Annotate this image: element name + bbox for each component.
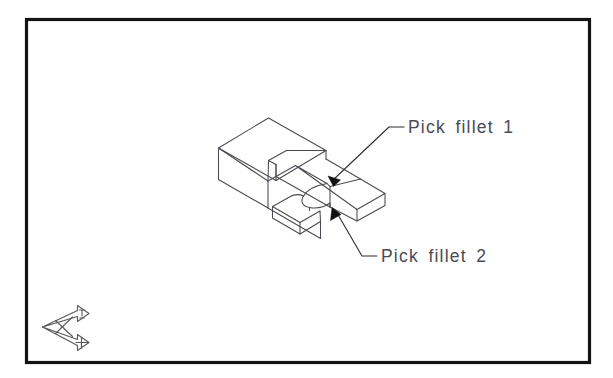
slot-inner-fillet-upper <box>302 184 327 208</box>
leader-fillet-2[interactable] <box>331 208 378 257</box>
leader-1-arrowhead <box>328 176 341 187</box>
body-lower-sweep-edge <box>268 208 321 239</box>
block-front-left-face <box>219 180 269 209</box>
solid-model-geometry <box>219 118 386 239</box>
annotation-label-fillet-1[interactable]: Pick fillet 1 <box>408 117 514 138</box>
cad-drawing-viewport: Pick fillet 1 Pick fillet 2 <box>0 0 613 378</box>
leader-1-line <box>333 127 404 180</box>
slot-inner-fillet-lower <box>310 203 331 208</box>
block-step-edge-c <box>269 151 287 161</box>
ucs-isometric-icon[interactable] <box>43 306 90 351</box>
block-top-face <box>219 118 327 181</box>
left-prong-top-face <box>273 195 321 223</box>
block-front-left-top-edge <box>219 148 269 181</box>
annotation-label-fillet-2[interactable]: Pick fillet 2 <box>381 246 487 267</box>
leader-fillet-1[interactable] <box>328 127 404 187</box>
body-upper-right-edge <box>326 159 361 179</box>
block-step-edge-a <box>268 165 276 182</box>
right-prong-top-face <box>296 166 386 210</box>
cad-canvas[interactable] <box>0 0 613 378</box>
left-prong-side-edge <box>320 211 321 222</box>
